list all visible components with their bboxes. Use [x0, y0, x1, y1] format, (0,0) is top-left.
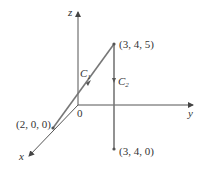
- point-200-label: (2, 0, 0): [16, 119, 51, 130]
- c2-direction-arrow: [112, 78, 116, 83]
- point-200: [51, 126, 54, 129]
- curve-c1: [53, 44, 114, 128]
- z-axis-label: z: [68, 7, 72, 18]
- point-345-label: (3, 4, 5): [119, 39, 154, 50]
- origin-label: 0: [77, 108, 83, 119]
- curve-c2-label: C2: [118, 76, 129, 89]
- point-345: [112, 42, 115, 45]
- c2-subscript: 2: [125, 81, 129, 89]
- y-axis-label: y: [188, 108, 193, 119]
- curve-c1-label: C1: [80, 68, 91, 81]
- point-340: [112, 147, 115, 150]
- x-axis: [29, 105, 78, 156]
- x-axis-label: x: [19, 151, 24, 162]
- diagram-canvas: [0, 0, 205, 171]
- point-340-label: (3, 4, 0): [119, 146, 154, 157]
- c1-subscript: 1: [87, 73, 91, 81]
